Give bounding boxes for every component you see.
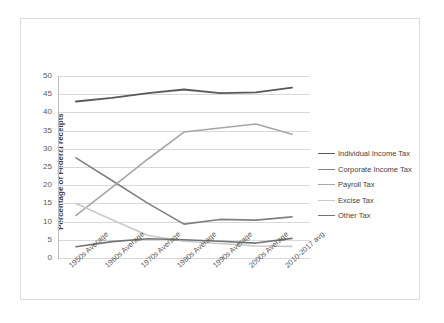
y-axis-tick-label: 15 [6, 199, 52, 207]
legend-item[interactable]: Individual Income Tax [318, 146, 418, 162]
legend-item-label: Payroll Tax [338, 180, 375, 189]
legend-item-label: Corporate Income Tax [338, 165, 412, 174]
y-axis-tick-label: 20 [6, 181, 52, 189]
plot-area [58, 76, 310, 258]
legend-item[interactable]: Corporate Income Tax [318, 162, 418, 178]
legend-color-swatch [318, 215, 335, 216]
legend-color-swatch [318, 184, 335, 185]
chart-legend: Individual Income TaxCorporate Income Ta… [318, 146, 418, 224]
y-axis-tick-label: 30 [6, 145, 52, 153]
y-axis-tick-label: 35 [6, 127, 52, 135]
y-axis-tick-label: 5 [6, 236, 52, 244]
series-line [76, 88, 292, 102]
y-axis-tick-label: 50 [6, 72, 52, 80]
y-axis-tick-label: 10 [6, 218, 52, 226]
chart-figure: Percentage of Federal receipts 504540353… [0, 0, 444, 323]
legend-item[interactable]: Other Tax [318, 208, 418, 224]
legend-color-swatch [318, 200, 335, 201]
y-axis-tick-label: 0 [6, 254, 52, 262]
legend-item[interactable]: Excise Tax [318, 193, 418, 209]
legend-item-label: Excise Tax [338, 196, 374, 205]
legend-color-swatch [318, 153, 335, 154]
series-line [76, 124, 292, 215]
series-lines [58, 76, 310, 258]
legend-item-label: Individual Income Tax [338, 149, 410, 158]
legend-item[interactable]: Payroll Tax [318, 177, 418, 193]
legend-item-label: Other Tax [338, 211, 370, 220]
y-axis-tick-label: 45 [6, 90, 52, 98]
legend-color-swatch [318, 169, 335, 170]
y-axis-tick-label: 40 [6, 108, 52, 116]
y-axis-tick-label: 25 [6, 163, 52, 171]
